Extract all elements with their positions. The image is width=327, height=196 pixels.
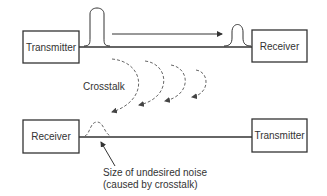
noise-annotation-line2: (caused by crosstalk) [103,179,197,190]
bottom-receiver-label: Receiver [31,131,71,142]
noise-pointer-arrow [101,142,115,166]
bottom-transmitter-label: Transmitter [254,130,305,141]
noise-bump [85,122,111,136]
crosstalk-arcs [112,59,206,112]
transmitted-pulse [84,8,110,46]
received-pulse [224,25,251,47]
noise-annotation-line1: Size of undesired noise [103,167,207,178]
top-transmitter-label: Transmitter [26,42,77,53]
bottom-link: Receiver Transmitter [23,119,307,153]
top-link: Transmitter Receiver [23,8,307,63]
top-receiver-label: Receiver [260,41,300,52]
crosstalk-arc-2 [139,61,164,105]
crosstalk-label: Crosstalk [83,81,126,92]
crosstalk-arc-4 [192,70,206,97]
crosstalk-arc-3 [165,65,185,101]
crosstalk-diagram: Transmitter Receiver Crosstalk Receiver … [0,0,327,196]
